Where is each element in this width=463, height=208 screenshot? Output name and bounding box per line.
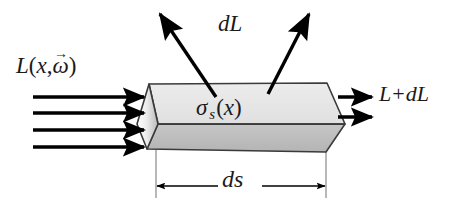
incoming-radiance-L: L: [16, 53, 29, 78]
incoming-radiance-omega-vector: →ω: [52, 54, 68, 77]
outgoing-radiance-arrows: [338, 97, 372, 117]
outgoing-radiance-label: L+dL: [379, 83, 429, 105]
incoming-radiance-x: x: [36, 53, 46, 78]
scattering-coefficient-subscript: s: [207, 106, 216, 122]
slab-top-face: [149, 83, 345, 124]
incoming-radiance-arrows: [33, 97, 144, 147]
slab-front-face: [147, 124, 345, 152]
scattering-coefficient-label: σs(x): [196, 96, 242, 122]
scattering-coefficient-sigma: σ: [196, 95, 207, 120]
outgoing-radiance-plus: +: [391, 81, 405, 106]
scattered-arrow-right: [268, 14, 309, 94]
scattering-coefficient-open-paren: (: [216, 95, 224, 120]
outgoing-radiance-dL: dL: [406, 81, 429, 106]
incoming-radiance-label: L(x,→ω): [16, 54, 76, 77]
vector-arrow-icon: →: [52, 47, 68, 61]
incoming-radiance-close-paren: ): [69, 53, 77, 78]
scattered-radiance-label: dL: [218, 12, 242, 35]
segment-length-label: ds: [222, 167, 243, 191]
scattering-coefficient-x: x: [224, 95, 234, 120]
scattering-diagram: L(x,→ω) σs(x) dL L+dL ds: [0, 0, 463, 208]
outgoing-radiance-L: L: [379, 81, 391, 106]
scattering-coefficient-close-paren: ): [234, 95, 242, 120]
